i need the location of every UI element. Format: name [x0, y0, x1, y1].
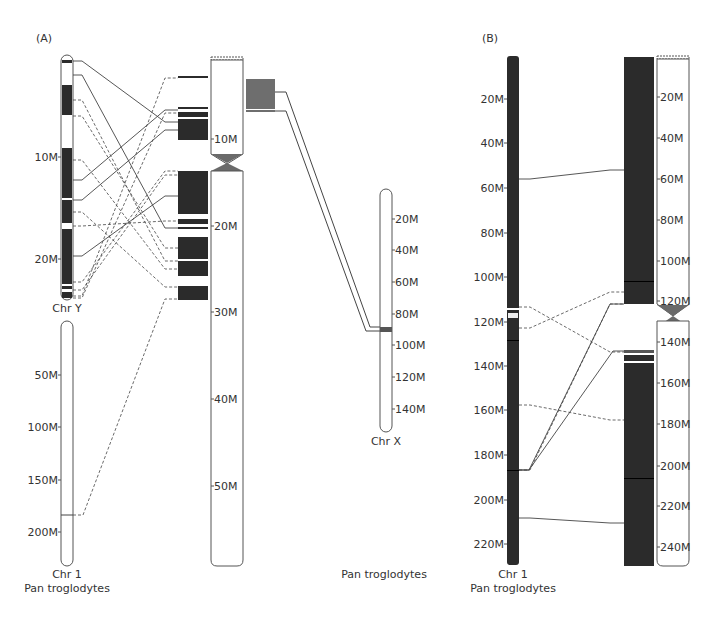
species-label-a: Pan troglodytes [341, 568, 427, 581]
tick-label: 10M [35, 151, 59, 164]
chr-x-label: Chr X [371, 435, 402, 448]
tick-label: 30M [214, 306, 238, 319]
chr-x-ticks: 20M40M60M80M100M120M140M [392, 213, 426, 416]
chr-1-b-ticks: 20M40M60M80M100M120M140M160M180M200M220M [474, 93, 508, 551]
chr-1-a-label: Chr 1 [52, 568, 82, 581]
tick-label: 120M [395, 371, 426, 384]
tick-label: 50M [214, 480, 238, 493]
chr-1-b [507, 56, 519, 565]
tick-label: 20M [660, 91, 684, 104]
tick-label: 60M [660, 173, 684, 186]
tick-label: 20M [214, 220, 238, 233]
tick-label: 220M [474, 538, 505, 551]
tick-label: 200M [660, 460, 691, 473]
tick-label: 60M [481, 182, 505, 195]
panel-a-label: (A) [36, 32, 52, 45]
synteny-links-b-dashed [519, 292, 624, 470]
chr-1-a-ticks: 50M100M150M200M [28, 369, 62, 539]
target-blocks-a [178, 76, 208, 300]
chr-1-b-species: Pan troglodytes [470, 582, 556, 595]
tick-label: 140M [474, 360, 505, 373]
panel-b-label: (B) [482, 32, 498, 45]
tick-label: 100M [28, 421, 59, 434]
x-link [246, 79, 380, 331]
chr-y-ticks: 10M20M [35, 151, 62, 266]
tick-label: 200M [474, 494, 505, 507]
tick-label: 180M [660, 418, 691, 431]
tick-label: 200M [28, 526, 59, 539]
chr-y [61, 55, 73, 300]
tick-label: 240M [660, 541, 691, 554]
target-blocks-b [624, 57, 654, 566]
tick-label: 40M [395, 244, 419, 257]
chr-1-b-label: Chr 1 [498, 568, 528, 581]
tick-label: 100M [395, 339, 426, 352]
tick-label: 20M [35, 253, 59, 266]
tick-label: 120M [474, 316, 505, 329]
chr-y-label: Chr Y [52, 302, 82, 315]
tick-label: 160M [660, 377, 691, 390]
chr-1-a-species: Pan troglodytes [24, 582, 110, 595]
synteny-diagram: (A) 10M20M Chr Y 50M100M150M200M Chr 1 P… [0, 0, 718, 621]
chr-1-a [61, 321, 73, 566]
tick-label: 100M [474, 271, 505, 284]
chr-x [380, 189, 392, 432]
tick-label: 20M [395, 213, 419, 226]
tick-label: 80M [660, 214, 684, 227]
synteny-links-a [73, 61, 178, 256]
tick-label: 40M [481, 137, 505, 150]
tick-label: 150M [28, 474, 59, 487]
tick-label: 140M [660, 336, 691, 349]
tick-label: 10M [214, 133, 238, 146]
tick-label: 60M [395, 276, 419, 289]
tick-label: 140M [395, 403, 426, 416]
tick-label: 80M [395, 308, 419, 321]
tick-label: 80M [481, 227, 505, 240]
tick-label: 20M [481, 93, 505, 106]
tick-label: 180M [474, 449, 505, 462]
tick-label: 40M [214, 393, 238, 406]
tick-label: 220M [660, 500, 691, 513]
tick-label: 160M [474, 404, 505, 417]
tick-label: 120M [660, 295, 691, 308]
synteny-links-b [519, 170, 624, 523]
tick-label: 50M [35, 369, 59, 382]
tick-label: 100M [660, 255, 691, 268]
tick-label: 40M [660, 132, 684, 145]
